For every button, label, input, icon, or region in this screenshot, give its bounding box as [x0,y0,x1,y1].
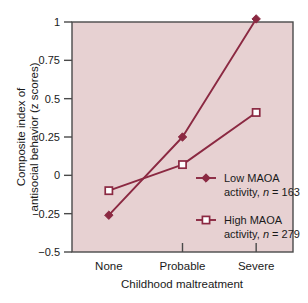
line-chart: −0.5−0.2500.250.50.751 NoneProbableSever… [0,0,308,303]
x-axis-category-labels: NoneProbableSevere [95,260,274,272]
data-point-marker [253,109,260,116]
legend-label-line-1: High MAOA [224,214,283,226]
y-tick-label: 0 [54,169,60,181]
y-tick-label: 0.75 [39,54,60,66]
x-category-label: Severe [238,260,274,272]
y-axis-title-line-1: Composite index of [15,87,27,186]
x-category-label: Probable [159,260,205,272]
y-tick-label: 0.25 [39,131,60,143]
y-tick-label: −0.5 [38,246,60,258]
chart-figure: −0.5−0.2500.250.50.751 NoneProbableSever… [0,0,308,303]
y-tick-label: 0.5 [45,93,60,105]
data-point-marker [179,161,186,168]
legend-marker-open-square-icon [202,216,209,223]
y-axis-title-line-2: antisocial behavior (z scores) [28,62,40,211]
x-axis-title: Childhood maltreatment [121,278,244,290]
data-point-marker [105,187,112,194]
legend-label-line-1: Low MAOA [224,172,280,184]
y-tick-label: 1 [54,16,60,28]
legend-label-line-2: activity, n = 163 [224,186,300,198]
x-category-label: None [95,260,123,272]
legend-label-line-2: activity, n = 279 [224,228,300,240]
